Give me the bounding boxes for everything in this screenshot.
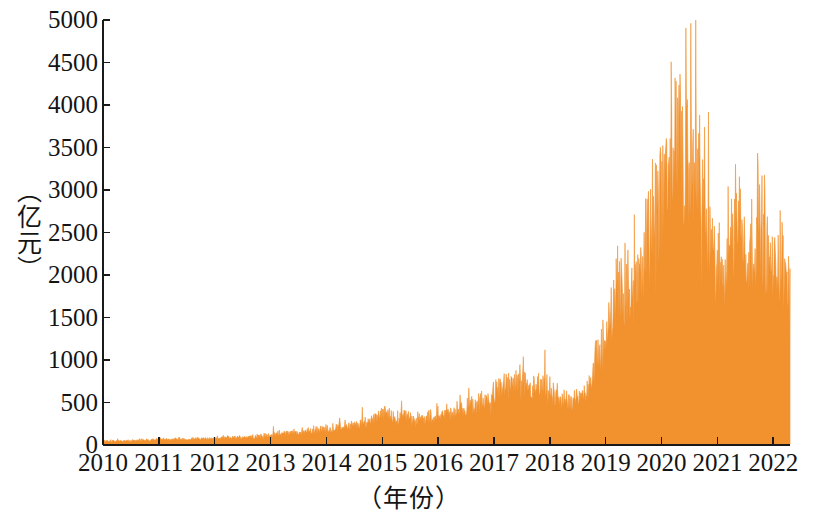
y-tick-label: 1500: [2, 305, 98, 330]
chart-figure: （亿元） （年份） 050010001500200025003000350040…: [0, 0, 818, 519]
data-series-area: [103, 20, 790, 445]
y-tick-label: 4000: [2, 92, 98, 117]
y-tick-label: 1000: [2, 347, 98, 372]
y-tick-label: 3500: [2, 135, 98, 160]
y-tick-label: 5000: [2, 7, 98, 32]
y-tick-label: 500: [2, 390, 98, 415]
x-axis-title: （年份）: [0, 478, 818, 514]
plot-area: [0, 0, 818, 519]
x-tick-label: 2022: [733, 450, 813, 475]
y-tick-label: 2000: [2, 262, 98, 287]
y-tick-label: 2500: [2, 220, 98, 245]
y-tick-label: 3000: [2, 177, 98, 202]
y-tick-label: 4500: [2, 50, 98, 75]
